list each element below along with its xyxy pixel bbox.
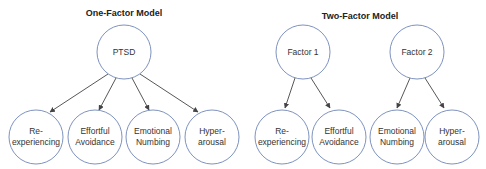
node-label-line1: Re- xyxy=(29,126,43,136)
node-hyperarousal: Hyper- arousal xyxy=(185,110,239,164)
node-label-line2: Avoidance xyxy=(75,137,115,147)
node-label-line1: Hyper- xyxy=(199,126,225,136)
two-factor-title: Two-Factor Model xyxy=(322,11,398,21)
node-label-line2: Numbing xyxy=(136,137,170,147)
node-label-line2: experiencing xyxy=(258,137,306,147)
node-effortful-avoidance: Effortful Avoidance xyxy=(312,110,366,164)
edge-factor2-hyperarousal xyxy=(425,78,444,108)
node-label-line1: Effortful xyxy=(80,126,109,136)
one-factor-model: One-Factor Model PTSD Re- experiencing E… xyxy=(9,8,239,164)
edge-ptsd-hyperarousal xyxy=(140,74,198,112)
node-ptsd: PTSD xyxy=(97,25,151,79)
node-label-line2: Numbing xyxy=(380,137,414,147)
edge-factor1-avoidance xyxy=(311,78,330,108)
node-label-line1: Emotional xyxy=(134,126,172,136)
node-label-line2: arousal xyxy=(438,137,466,147)
node-factor-1-label: Factor 1 xyxy=(287,47,318,57)
node-reexperiencing: Re- experiencing xyxy=(255,110,309,164)
node-label-line2: arousal xyxy=(198,137,226,147)
node-emotional-numbing: Emotional Numbing xyxy=(370,110,424,164)
node-reexperiencing: Re- experiencing xyxy=(9,110,63,164)
factor-model-diagram: One-Factor Model PTSD Re- experiencing E… xyxy=(0,0,486,169)
node-label-line1: Effortful xyxy=(324,126,353,136)
edge-ptsd-avoidance xyxy=(99,78,116,110)
node-label-line1: Emotional xyxy=(378,126,416,136)
edge-ptsd-numbing xyxy=(132,78,149,110)
edge-ptsd-reexperiencing xyxy=(50,74,108,112)
node-emotional-numbing: Emotional Numbing xyxy=(126,110,180,164)
node-label-line2: Avoidance xyxy=(319,137,359,147)
node-ptsd-label: PTSD xyxy=(113,47,136,57)
node-factor-2-label: Factor 2 xyxy=(401,47,432,57)
edge-factor2-numbing xyxy=(397,78,410,108)
one-factor-title: One-Factor Model xyxy=(86,8,163,18)
node-label-line1: Re- xyxy=(275,126,289,136)
node-hyperarousal: Hyper- arousal xyxy=(425,110,479,164)
node-label-line2: experiencing xyxy=(12,137,60,147)
node-factor-1: Factor 1 xyxy=(276,25,330,79)
edge-factor1-reexperiencing xyxy=(285,78,295,108)
two-factor-model: Two-Factor Model Factor 1 Factor 2 Re- e… xyxy=(255,11,479,164)
node-effortful-avoidance: Effortful Avoidance xyxy=(68,110,122,164)
node-label-line1: Hyper- xyxy=(439,126,465,136)
node-factor-2: Factor 2 xyxy=(390,25,444,79)
